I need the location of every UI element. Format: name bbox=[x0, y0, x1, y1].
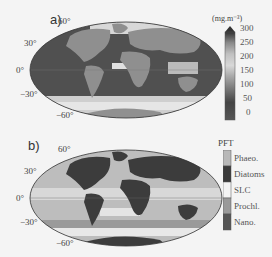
pft-category-label: Prochl. bbox=[234, 201, 260, 211]
panel-a-chlorophyll-map: a) bbox=[0, 0, 272, 128]
pft-category-label: SLC bbox=[234, 185, 251, 195]
colorbar-tick: 150 bbox=[240, 65, 254, 75]
colorbar-tick: 100 bbox=[240, 79, 254, 89]
lat-label-30s: −30° bbox=[20, 217, 38, 227]
lat-label-60n: 60° bbox=[58, 144, 71, 154]
pft-category-label: Nano. bbox=[234, 217, 256, 227]
pft-category-label: Diatoms bbox=[234, 169, 265, 179]
lat-label-60s: −60° bbox=[56, 110, 74, 120]
lat-label-30s: −30° bbox=[20, 89, 38, 99]
lat-label-60n: 60° bbox=[58, 16, 71, 26]
lat-label-60s: −60° bbox=[56, 238, 74, 248]
colorbar-tick: 0 bbox=[246, 107, 251, 117]
extend-max-arrow bbox=[225, 26, 235, 32]
colorbar-continuous bbox=[224, 26, 236, 122]
panel-b-pft-map: b) 60° 30° 0° −30° bbox=[0, 128, 272, 257]
colorbar-title: PFT bbox=[218, 138, 234, 148]
lat-label-30n: 30° bbox=[24, 38, 37, 48]
pft-category-label: Phaeo. bbox=[234, 153, 258, 163]
colorbar-title: (mg.m⁻³) bbox=[212, 14, 242, 23]
lat-label-30n: 30° bbox=[24, 166, 37, 176]
lat-label-0: 0° bbox=[16, 193, 24, 203]
colorbar-tick: 300 bbox=[240, 23, 254, 33]
lat-label-0: 0° bbox=[16, 65, 24, 75]
colorbar-categorical bbox=[223, 150, 233, 232]
colorbar-tick: 200 bbox=[240, 51, 254, 61]
colorbar-tick: 250 bbox=[240, 37, 254, 47]
colorbar-tick: 50 bbox=[243, 93, 252, 103]
